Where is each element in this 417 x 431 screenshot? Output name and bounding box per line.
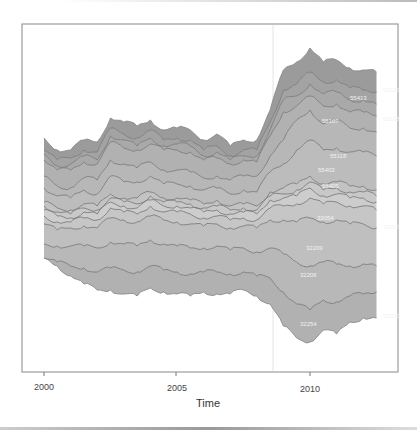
streamgraph-chart: 5510155413551085510755118554035540533207…	[0, 0, 417, 431]
stream-layers	[44, 48, 377, 343]
series-label: 32209	[306, 245, 323, 251]
series-label: 55403	[318, 167, 335, 173]
x-tick-2005: 2005	[167, 383, 187, 393]
x-tick-2010: 2010	[300, 384, 320, 394]
series-label: 55108	[383, 116, 400, 122]
series-label: 33054	[317, 215, 334, 221]
series-label: 55107	[322, 118, 339, 124]
series-label: 32254	[300, 321, 317, 327]
x-tick-2000: 2000	[34, 382, 54, 392]
series-label: 33207	[383, 224, 400, 230]
x-axis-title: Time	[196, 397, 220, 409]
x-axis: 2000 2005 2010 Time	[34, 372, 320, 409]
series-label: 55413	[350, 95, 367, 101]
series-label: 55101	[383, 87, 400, 93]
page-edge-bottom	[0, 427, 417, 430]
series-label: 32206	[300, 272, 317, 278]
series-label: 55118	[330, 153, 347, 159]
series-label: 55405	[322, 183, 339, 189]
series-label: 32230	[383, 313, 400, 319]
